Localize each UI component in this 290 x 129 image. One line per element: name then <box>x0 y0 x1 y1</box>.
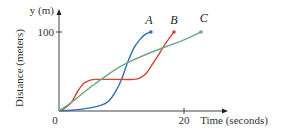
series-label-c: C <box>200 11 209 25</box>
y-axis-unit-label: y (m) <box>30 4 54 17</box>
series-group: ABC <box>59 11 209 111</box>
series-endpoint-a <box>149 30 153 34</box>
x-axis-title: Time (seconds) <box>200 114 268 127</box>
y-axis-title: Distance (meters) <box>13 29 26 107</box>
origin-label: 0 <box>52 114 58 126</box>
y-tick-label: 100 <box>38 26 55 38</box>
series-endpoint-b <box>172 30 176 34</box>
x-tick-label: 20 <box>179 114 191 126</box>
y-axis-arrow-icon <box>57 9 62 15</box>
series-label-b: B <box>170 13 178 27</box>
x-axis-arrow-icon <box>222 109 228 114</box>
series-line-c <box>59 32 201 111</box>
series-label-a: A <box>144 13 153 27</box>
series-endpoint-c <box>199 30 203 34</box>
distance-time-chart: 20100 y (m) Distance (meters) 0 Time (se… <box>0 0 290 129</box>
